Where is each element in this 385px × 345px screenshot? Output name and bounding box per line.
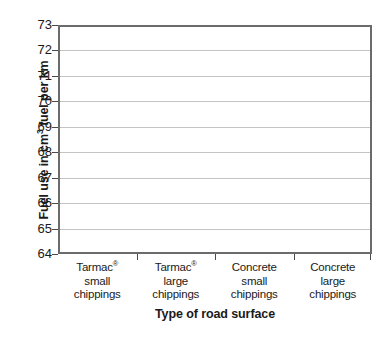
x-axis-category-labels: Tarmac®smallchippingsTarmac®largechippin… <box>58 261 372 302</box>
y-axis-tick-label: 64 <box>28 247 52 260</box>
category-label-line: large <box>294 275 373 289</box>
x-axis-category-label: Concretesmallchippings <box>215 261 294 302</box>
y-axis-tick-labels: 73727170696867666564 <box>28 25 52 254</box>
x-axis-tick-mark <box>137 254 138 260</box>
chart-container: Fuel use in cm3 fuel per km 737271706968… <box>0 0 385 345</box>
category-label-line: Concrete <box>215 261 294 275</box>
gridline-horizontal <box>60 152 370 153</box>
registered-trademark-icon: ® <box>113 259 118 268</box>
category-label-line: small <box>215 275 294 289</box>
category-label-line: chippings <box>294 288 373 302</box>
category-label-line: chippings <box>215 288 294 302</box>
x-axis-category-label: Tarmac®largechippings <box>137 261 216 302</box>
category-label-line: Concrete <box>294 261 373 275</box>
x-axis-category-label: Concretelargechippings <box>294 261 373 302</box>
category-label-line: Tarmac® <box>58 261 137 275</box>
registered-trademark-icon: ® <box>191 259 196 268</box>
plot-area <box>58 25 372 254</box>
y-axis-tick-label: 68 <box>28 145 52 158</box>
x-axis-title: Type of road surface <box>58 307 372 321</box>
y-axis-tick-label: 73 <box>28 18 52 31</box>
x-axis-tick-mark <box>215 254 216 260</box>
y-axis-tick-label: 69 <box>28 120 52 133</box>
y-axis-tick-label: 71 <box>28 69 52 82</box>
y-axis-tick-mark <box>52 254 58 255</box>
y-axis-tick-label: 67 <box>28 171 52 184</box>
category-label-line: chippings <box>137 288 216 302</box>
y-axis-tick-label: 72 <box>28 43 52 56</box>
y-axis-tick-label: 65 <box>28 222 52 235</box>
category-label-line: chippings <box>58 288 137 302</box>
x-axis-category-label: Tarmac®smallchippings <box>58 261 137 302</box>
y-axis-tick-label: 66 <box>28 196 52 209</box>
y-axis-tick-label: 70 <box>28 94 52 107</box>
x-axis-tick-mark <box>294 254 295 260</box>
x-axis-tick-mark <box>370 254 371 260</box>
gridline-horizontal <box>60 50 370 51</box>
category-label-line: Tarmac® <box>137 261 216 275</box>
category-label-line: large <box>137 275 216 289</box>
gridline-horizontal <box>60 203 370 204</box>
gridline-horizontal <box>60 76 370 77</box>
gridline-horizontal <box>60 178 370 179</box>
gridline-horizontal <box>60 127 370 128</box>
gridline-horizontal <box>60 101 370 102</box>
gridline-horizontal <box>60 229 370 230</box>
category-label-line: small <box>58 275 137 289</box>
